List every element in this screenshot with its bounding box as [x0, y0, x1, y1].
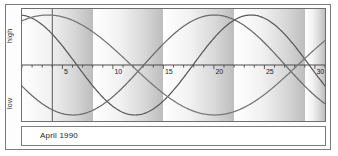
- x-axis-tick-label: 30: [316, 68, 324, 75]
- month-caption: April 1990: [40, 131, 78, 140]
- x-axis-tick-label: 5: [64, 68, 68, 75]
- x-axis-tick-label: 15: [165, 68, 173, 75]
- plot-area: 51015202530: [21, 8, 326, 122]
- biorhythm-chart-figure: high low 51015202530 April 1990: [0, 0, 338, 156]
- x-axis-tick-label: 25: [266, 68, 274, 75]
- biorhythm-curves: 51015202530: [22, 9, 325, 121]
- x-axis-tick-label: 10: [114, 68, 122, 75]
- caption-strip: April 1990: [21, 126, 326, 146]
- x-axis-tick-label: 20: [215, 68, 223, 75]
